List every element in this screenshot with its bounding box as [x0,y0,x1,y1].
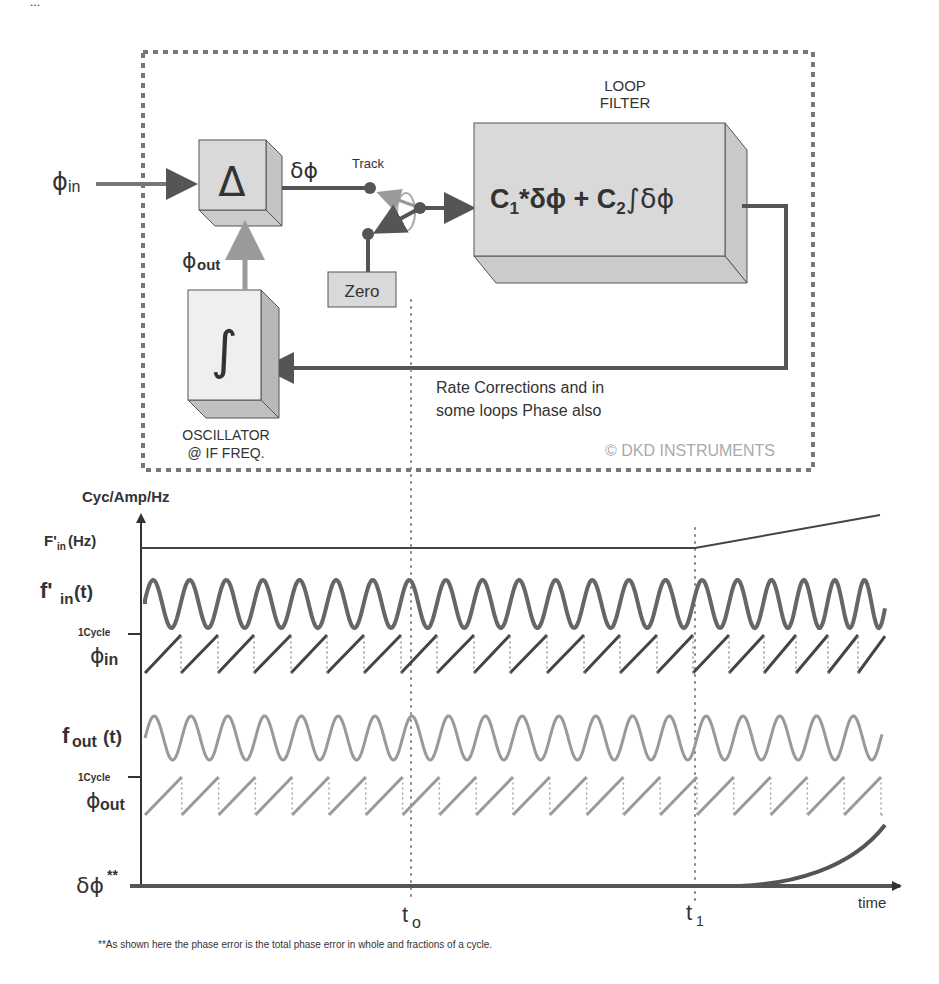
row-label-phi-out: 1Cycle ϕ out [78,772,141,813]
svg-text:in: in [68,178,80,195]
loop-filter-title-1: LOOP [604,77,646,94]
pll-diagram: ... ϕ in Δ δϕ Track Zero LOOP FILTER [0,0,939,984]
y-axis-title: Cyc/Amp/Hz [82,488,170,505]
svg-text:ϕ: ϕ [52,168,68,196]
svg-text:o: o [412,914,421,931]
svg-text:1: 1 [696,913,704,929]
feedback-note-1: Rate Corrections and in [436,379,604,396]
oscillator-label-1: OSCILLATOR [182,427,269,443]
svg-text:F': F' [44,532,57,549]
delta-symbol: Δ [218,159,246,205]
svg-text:**: ** [107,867,118,883]
f-in-trace [145,580,885,628]
svg-text:1Cycle: 1Cycle [78,627,111,638]
svg-text:t: t [402,902,408,927]
svg-text:δϕ: δϕ [76,873,104,898]
svg-text:out: out [72,733,98,750]
svg-text:in: in [104,651,118,668]
svg-text:(t): (t) [103,726,122,747]
svg-text:1Cycle: 1Cycle [78,772,111,783]
feedback-note-2: some loops Phase also [436,402,602,419]
t1-label: t 1 [686,900,704,929]
comparator-block: Δ [199,140,282,226]
copyright: © DKD INSTRUMENTS [605,442,775,459]
top-text-fragment: ... [30,0,40,9]
svg-text:ϕ: ϕ [86,788,101,813]
feedback-phi-out: ϕ out [182,248,220,273]
x-axis-label: time [858,894,886,911]
integral-symbol: ∫ [210,320,237,380]
row-label-f-out-t: f out (t) [62,723,122,750]
oscillator-block: ∫ [188,290,279,418]
row-label-delta-phi: δϕ ** [76,867,118,898]
svg-text:(t): (t) [74,581,93,602]
svg-text:Zero: Zero [345,282,380,301]
t0-label: t o [402,902,421,931]
waveform-traces [145,580,885,815]
svg-text:in: in [60,590,73,607]
footnote: **As shown here the phase error is the t… [98,939,492,950]
loop-filter-block: C1*δϕ + C2∫δϕ [474,123,747,283]
zero-block: Zero [328,272,396,307]
input-phi-in: ϕ in [52,168,80,196]
svg-text:ϕ: ϕ [182,248,197,273]
svg-text:out: out [100,796,126,813]
F-in-trace [141,515,880,548]
f-out-trace [145,716,882,760]
svg-text:(Hz): (Hz) [68,532,96,549]
phi-in-trace [145,635,885,673]
row-label-f-in-t: f' in (t) [40,578,93,607]
svg-text:t: t [686,900,692,925]
svg-text:f: f [62,723,70,748]
row-label-phi-in: 1Cycle ϕ in [78,627,141,668]
row-label-F-in-hz: F' in (Hz) [44,532,96,552]
oscillator-label-2: @ IF FREQ. [187,445,264,461]
track-zero-switch [362,193,426,272]
svg-text:f': f' [40,578,53,603]
track-node [364,182,376,194]
phase-error-trace [141,825,885,886]
svg-text:in: in [57,541,66,552]
error-label: δϕ [290,158,318,183]
loop-filter-title-2: FILTER [600,94,651,111]
svg-text:ϕ: ϕ [90,643,105,668]
svg-text:out: out [197,256,220,273]
switch-track-label: Track [352,156,385,171]
